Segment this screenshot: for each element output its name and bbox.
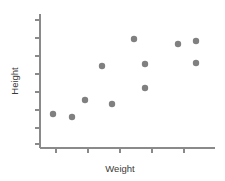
data-point	[109, 101, 115, 107]
scatter-plot-figure: Weight Height	[0, 0, 225, 181]
data-point	[142, 85, 148, 91]
data-point	[82, 97, 88, 103]
data-point	[69, 114, 75, 120]
data-point	[175, 41, 181, 47]
data-point	[50, 111, 56, 117]
plot-background	[0, 0, 225, 181]
y-axis-title: Height	[9, 67, 20, 95]
data-point	[142, 61, 148, 67]
data-point	[131, 36, 137, 42]
data-point	[193, 38, 199, 44]
chart-canvas: Weight Height	[0, 0, 225, 181]
x-axis-title: Weight	[105, 163, 135, 174]
data-point	[99, 63, 105, 69]
data-point	[193, 60, 199, 66]
